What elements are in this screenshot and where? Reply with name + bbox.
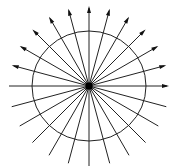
arrowed-field-ray [89, 66, 164, 86]
radial-field-diagram [0, 0, 183, 168]
arrowhead-icon [159, 65, 166, 69]
plain-field-ray [89, 86, 166, 107]
center-source-node [86, 83, 93, 90]
arrowhead-icon [12, 65, 19, 69]
arrowhead-icon [68, 9, 72, 16]
arrowed-field-ray [69, 11, 89, 86]
arrowhead-icon [106, 9, 110, 16]
arrowed-field-ray [14, 66, 89, 86]
plain-field-ray [89, 86, 110, 163]
plain-field-ray [68, 86, 89, 163]
arrowhead-icon [151, 46, 158, 51]
arrowed-field-ray [89, 11, 109, 86]
arrowhead-icon [124, 17, 129, 24]
arrowhead-icon [87, 6, 91, 13]
arrowhead-icon [20, 46, 27, 51]
arrowhead-icon [49, 17, 54, 24]
arrowhead-icon [162, 84, 169, 88]
plain-field-ray [12, 86, 89, 107]
